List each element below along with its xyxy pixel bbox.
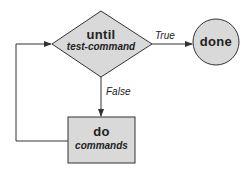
process-keyword: do — [68, 124, 135, 139]
loop-back-arrow — [16, 44, 68, 141]
true-edge-label: True — [155, 30, 175, 41]
decision-condition: test-command — [66, 41, 136, 52]
process-body: commands — [68, 140, 135, 151]
terminal-label: done — [193, 34, 239, 49]
decision-keyword: until — [76, 27, 126, 42]
false-edge-label: False — [106, 86, 130, 97]
